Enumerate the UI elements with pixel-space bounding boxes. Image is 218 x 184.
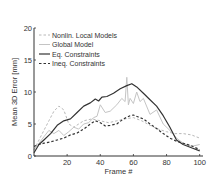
series-line-ineq-constraints [34, 115, 200, 150]
legend-item-label: Nonlin. Local Models [52, 32, 117, 39]
y-tick-label: 0 [28, 152, 32, 161]
x-tick-label: 20 [63, 158, 71, 167]
y-tick-label: 20 [24, 24, 32, 33]
legend-item-label: Eq. Constraints [52, 51, 100, 59]
y-axis-label: Mean 3D Error [mm] [10, 58, 19, 126]
axes: 0510152020406080100Frame #Mean 3D Error … [10, 24, 206, 177]
x-tick-label: 60 [129, 158, 137, 167]
legend: Nonlin. Local ModelsGlobal ModelEq. Cons… [39, 32, 117, 69]
legend-item-label: Ineq. Constraints [52, 60, 105, 68]
series-line-eq-constraints [34, 84, 200, 153]
x-tick-label: 100 [193, 158, 206, 167]
series-line-nonlin-local-models [34, 106, 200, 150]
legend-item-label: Global Model [52, 41, 94, 48]
x-tick-label: 40 [96, 158, 104, 167]
y-tick-label: 10 [24, 88, 32, 97]
x-tick-label: 80 [162, 158, 170, 167]
series-line-global-model [34, 77, 200, 149]
line-chart: 0510152020406080100Frame #Mean 3D Error … [0, 0, 218, 184]
y-tick-label: 15 [24, 56, 32, 65]
plot-area [34, 77, 200, 153]
x-axis-label: Frame # [105, 167, 134, 176]
y-tick-label: 5 [28, 120, 32, 129]
